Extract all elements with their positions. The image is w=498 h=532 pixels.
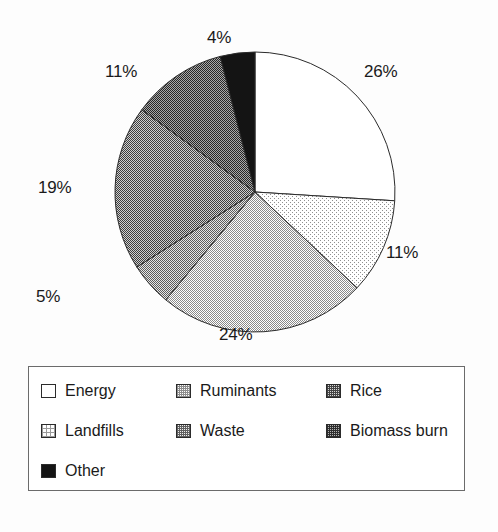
legend-item-label: Other xyxy=(65,463,105,479)
legend-grid: EnergyRuminantsRiceLandfillsWasteBiomass… xyxy=(29,367,464,490)
slice-label-landfills: 11% xyxy=(386,243,418,263)
legend-item-rice[interactable]: Rice xyxy=(326,371,464,411)
legend-item-label: Biomass burn xyxy=(350,423,448,439)
pie-chart-area: 4% 11% 26% 19% 11% 5% 24% xyxy=(0,0,498,360)
pie-chart-svg xyxy=(0,0,498,360)
legend-swatch-icon xyxy=(176,424,191,438)
legend-swatch-icon xyxy=(41,384,56,398)
legend-swatch-icon xyxy=(176,384,191,398)
legend-swatch-icon xyxy=(326,384,341,398)
legend-swatch-icon xyxy=(326,424,341,438)
slice-label-waste: 5% xyxy=(36,287,60,307)
legend-item-energy[interactable]: Energy xyxy=(41,371,176,411)
legend-swatch-icon xyxy=(41,464,56,478)
legend-swatch-icon xyxy=(41,424,56,438)
slice-label-ruminants: 24% xyxy=(219,325,252,345)
legend-item-biomass-burn[interactable]: Biomass burn xyxy=(326,411,464,451)
legend-item-landfills[interactable]: Landfills xyxy=(41,411,176,451)
legend-item-ruminants[interactable]: Ruminants xyxy=(176,371,326,411)
slice-label-energy: 26% xyxy=(364,62,397,82)
legend-item-label: Rice xyxy=(350,383,382,399)
legend-item-label: Waste xyxy=(200,423,245,439)
legend-item-label: Ruminants xyxy=(200,383,276,399)
slice-label-other: 4% xyxy=(207,28,231,48)
legend-item-label: Landfills xyxy=(65,423,124,439)
chart-page: 4% 11% 26% 19% 11% 5% 24% EnergyRuminant… xyxy=(0,0,498,532)
chart-legend: EnergyRuminantsRiceLandfillsWasteBiomass… xyxy=(28,366,465,491)
slice-label-biomass: 11% xyxy=(105,62,137,82)
legend-item-waste[interactable]: Waste xyxy=(176,411,326,451)
slice-label-rice: 19% xyxy=(38,178,71,198)
legend-item-other[interactable]: Other xyxy=(41,451,176,491)
pie-slice-group xyxy=(115,52,395,332)
legend-item-label: Energy xyxy=(65,383,116,399)
